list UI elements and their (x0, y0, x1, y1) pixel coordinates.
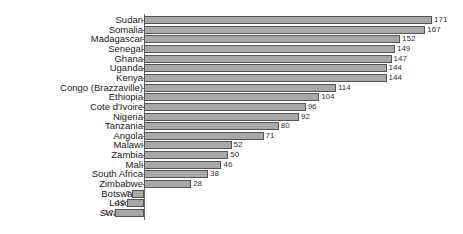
data-bar (144, 45, 395, 53)
value-label: 144 (389, 63, 402, 73)
horizontal-bar-chart: Sudan171Somalia167Madagascar152Senegal14… (0, 0, 463, 234)
value-label: 96 (308, 102, 317, 112)
value-label: 149 (397, 44, 410, 54)
data-bar (144, 16, 432, 24)
value-label: 171 (434, 15, 447, 25)
value-label: 147 (394, 54, 407, 64)
data-bar (144, 35, 400, 43)
data-bar (144, 74, 387, 82)
data-bar (115, 209, 144, 217)
data-bar (144, 103, 306, 111)
data-bar (144, 84, 336, 92)
value-label: 52 (234, 140, 243, 150)
value-label: 144 (389, 73, 402, 83)
value-label: 104 (321, 92, 334, 102)
value-label: 114 (338, 83, 351, 93)
value-label: 28 (193, 179, 202, 189)
value-label: 167 (427, 25, 440, 35)
data-bar (144, 170, 208, 178)
data-bar (144, 55, 392, 63)
data-bar (144, 141, 232, 149)
data-bar (144, 151, 228, 159)
value-label: -17 (102, 208, 114, 218)
data-bar (144, 113, 299, 121)
value-label: 46 (223, 160, 232, 170)
data-bar (144, 26, 425, 34)
data-bar (144, 64, 387, 72)
value-label: 71 (266, 131, 275, 141)
value-label: 152 (402, 34, 415, 44)
data-bar (144, 93, 319, 101)
data-bar (144, 180, 191, 188)
data-bar (144, 132, 264, 140)
data-bar (144, 161, 221, 169)
data-bar (144, 122, 279, 130)
value-label: 50 (230, 150, 239, 160)
value-label: 80 (281, 121, 290, 131)
value-label: 38 (210, 169, 219, 179)
value-label: 92 (301, 112, 310, 122)
